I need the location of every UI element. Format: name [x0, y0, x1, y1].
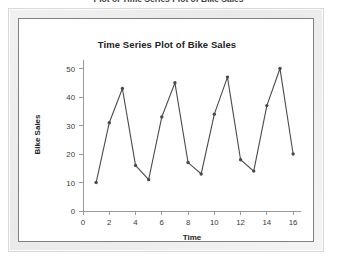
x-tick-label: 16	[289, 218, 298, 227]
x-tick-label: 2	[107, 218, 111, 227]
data-point	[239, 158, 242, 161]
series-line-bike-sales	[96, 69, 293, 183]
x-tick-label: 0	[81, 218, 85, 227]
x-axis-title: Time	[83, 233, 301, 242]
series-markers	[94, 67, 294, 184]
screenshot-root: Plot of Time Series Plot of Bike Sales T…	[0, 0, 337, 261]
data-point	[160, 115, 163, 118]
y-tick-label: 20	[66, 150, 75, 159]
data-point	[147, 178, 150, 181]
page-heading: Plot of Time Series Plot of Bike Sales	[0, 0, 337, 4]
data-point	[94, 181, 97, 184]
data-point	[173, 81, 176, 84]
x-tick-label: 14	[263, 218, 272, 227]
graph-window-frame: Time Series Plot of Bike Sales Bike Sale…	[8, 8, 324, 252]
graph-canvas: Time Series Plot of Bike Sales Bike Sale…	[18, 18, 314, 242]
ticks-group	[79, 69, 293, 215]
y-tick-label: 0	[71, 207, 75, 216]
data-point	[121, 87, 124, 90]
plot-svg	[83, 60, 301, 211]
plot-area: 01020304050 0246810121416	[83, 60, 301, 211]
x-tick-label: 12	[236, 218, 245, 227]
data-point	[226, 75, 229, 78]
data-point	[134, 164, 137, 167]
data-point	[278, 67, 281, 70]
data-point	[108, 121, 111, 124]
y-tick-label: 50	[66, 64, 75, 73]
data-point	[199, 172, 202, 175]
y-tick-label: 40	[66, 93, 75, 102]
y-axis-title: Bike Sales	[33, 104, 42, 164]
chart-title: Time Series Plot of Bike Sales	[19, 39, 315, 50]
x-tick-label: 10	[210, 218, 219, 227]
data-point	[213, 112, 216, 115]
x-tick-label: 6	[160, 218, 164, 227]
data-point	[291, 152, 294, 155]
data-point	[265, 104, 268, 107]
y-tick-label: 30	[66, 121, 75, 130]
data-point	[186, 161, 189, 164]
y-tick-label: 10	[66, 178, 75, 187]
x-tick-label: 8	[186, 218, 190, 227]
x-tick-label: 4	[133, 218, 137, 227]
data-point	[252, 169, 255, 172]
axes-group	[83, 60, 301, 211]
